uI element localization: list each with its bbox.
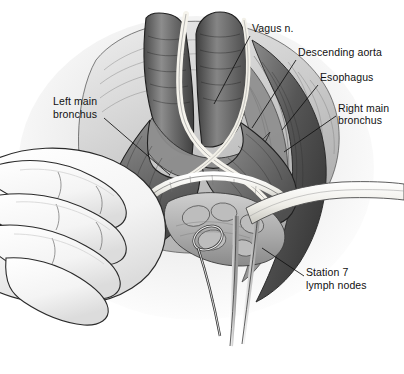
label-right-main-bronchus-line1: Right main	[338, 102, 389, 115]
illustration-figure: Vagus n. Descending aorta Esophagus Righ…	[0, 0, 404, 374]
label-left-main-bronchus-line2: bronchus	[53, 108, 97, 121]
label-esophagus: Esophagus	[320, 71, 373, 84]
label-descending-aorta: Descending aorta	[298, 46, 382, 59]
label-left-main-bronchus-line1: Left main	[53, 95, 97, 108]
label-vagus-nerve: Vagus n.	[252, 22, 293, 35]
label-station7-line1: Station 7	[306, 266, 348, 279]
label-right-main-bronchus-line2: bronchus	[338, 114, 382, 127]
label-station7-line2: lymph nodes	[306, 279, 367, 292]
